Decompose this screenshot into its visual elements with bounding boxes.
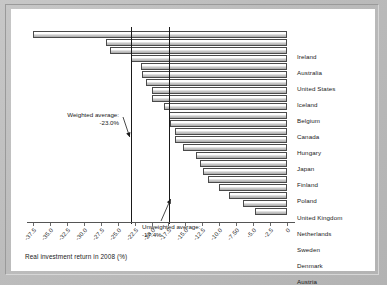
plot-area: IrelandAustraliaUnited StatesIcelandBelg… [11,9,375,271]
chart-panel: IrelandAustraliaUnited StatesIcelandBelg… [11,9,375,271]
category-label-austria: Austria [297,278,317,285]
screenshot-root: IrelandAustraliaUnited StatesIcelandBelg… [0,0,387,285]
annotation-arrow-unweighted-average [11,9,375,271]
